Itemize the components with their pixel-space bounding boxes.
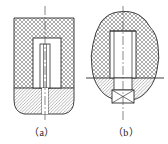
panel-b bbox=[86, 6, 164, 120]
caption-a: （a） bbox=[0, 120, 84, 142]
caption-b: （b） bbox=[84, 120, 168, 142]
panel-a bbox=[14, 6, 74, 120]
caption-row: （a） （b） bbox=[0, 120, 168, 142]
